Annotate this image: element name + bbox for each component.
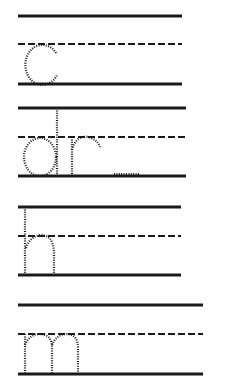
traced-letter-d — [24, 108, 57, 176]
practice-row-dr — [18, 108, 186, 176]
traced-letter-r — [72, 137, 100, 176]
practice-row-m — [18, 305, 203, 374]
practice-row-c: c — [0, 0, 182, 85]
traced-letter-h — [25, 207, 54, 275]
svg-text:c: c — [0, 0, 9, 4]
practice-row-h — [18, 207, 181, 275]
practice-sheet: c — [0, 0, 244, 389]
traced-letter-m — [25, 334, 78, 374]
traced-letter-c — [25, 45, 57, 85]
